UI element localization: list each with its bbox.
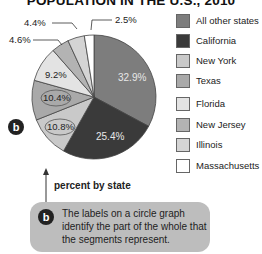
legend-item-all-other: All other states [176,14,262,30]
legend-swatch [176,138,190,152]
legend-item-new-york: New York [176,54,262,70]
label-florida: 9.2% [45,69,67,80]
label-illinois: 4.4% [24,17,46,28]
legend-swatch [176,54,190,68]
legend-swatch [176,34,190,48]
label-california: 25.4% [96,131,124,142]
b-badge: b [8,119,24,135]
legend-item-illinois: Illinois [176,138,262,154]
b-badge-callout: b [38,209,54,225]
legend-item-texas: Texas [176,74,262,90]
up-arrow-icon [43,168,49,204]
legend-swatch [176,14,190,28]
legend-item-california: California [176,34,262,50]
callout-box: b The labels on a circle graph identify … [30,202,210,252]
label-new-jersey: 4.6% [9,34,31,45]
label-all-other: 32.9% [118,72,146,83]
label-new-york: 10.8% [47,121,74,132]
legend-item-new-jersey: New Jersey [176,118,262,134]
legend-item-florida: Florida [176,97,262,113]
label-texas: 10.4% [43,92,70,103]
legend-swatch [176,74,190,88]
axis-note: percent by state [54,180,131,191]
callout-text: The labels on a circle graph identify th… [62,207,212,246]
legend-swatch [176,97,190,111]
legend-item-massachusetts: Massachusetts [176,159,262,175]
label-massachusetts: 2.5% [115,14,137,25]
legend-swatch [176,159,190,173]
legend-swatch [176,118,190,132]
